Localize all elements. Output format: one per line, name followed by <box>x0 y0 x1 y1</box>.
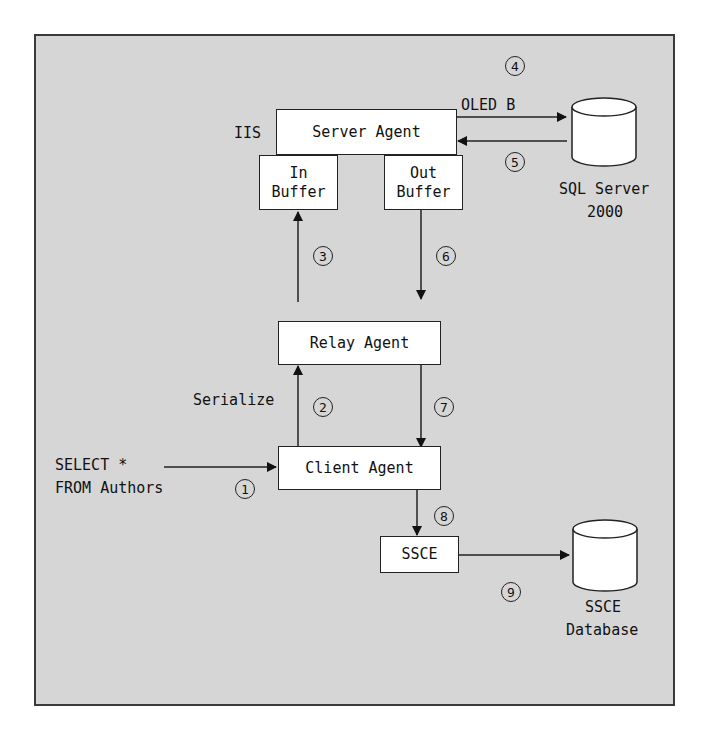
ssce-label: SSCE <box>401 545 437 564</box>
server-agent-box: Server Agent <box>276 109 457 155</box>
ssce-db-label-1: SSCE <box>585 598 621 617</box>
relay-agent-label: Relay Agent <box>310 334 409 353</box>
query-label-2: FROM Authors <box>55 479 163 498</box>
serialize-label: Serialize <box>193 391 274 410</box>
iis-label: IIS <box>234 124 261 143</box>
ssce-database-icon <box>573 520 637 591</box>
in-buffer-label-2: Buffer <box>271 183 325 202</box>
query-label-1: SELECT * <box>55 456 127 475</box>
in-buffer-label-1: In <box>289 164 307 183</box>
step-1-badge: 1 <box>235 479 255 499</box>
in-buffer-box: In Buffer <box>259 155 338 210</box>
client-agent-box: Client Agent <box>278 446 441 490</box>
out-buffer-box: Out Buffer <box>384 155 463 210</box>
step-5-badge: 5 <box>505 152 525 172</box>
ssce-box: SSCE <box>380 536 459 573</box>
ssce-db-label-2: Database <box>566 621 638 640</box>
step-2-badge: 2 <box>313 397 333 417</box>
step-7-badge: 7 <box>434 397 454 417</box>
oledb-label: OLED B <box>461 96 515 115</box>
step-6-badge: 6 <box>436 246 456 266</box>
client-agent-label: Client Agent <box>305 459 413 478</box>
sql-server-label-1: SQL Server <box>559 180 649 199</box>
server-agent-label: Server Agent <box>312 123 420 142</box>
relay-agent-box: Relay Agent <box>278 321 441 365</box>
out-buffer-label-2: Buffer <box>396 183 450 202</box>
step-3-badge: 3 <box>313 246 333 266</box>
sql-server-label-2: 2000 <box>587 203 623 222</box>
step-9-badge: 9 <box>501 582 521 602</box>
step-8-badge: 8 <box>434 506 454 526</box>
sql-server-database-icon <box>572 98 636 166</box>
step-4-badge: 4 <box>505 56 525 76</box>
out-buffer-label-1: Out <box>410 164 437 183</box>
